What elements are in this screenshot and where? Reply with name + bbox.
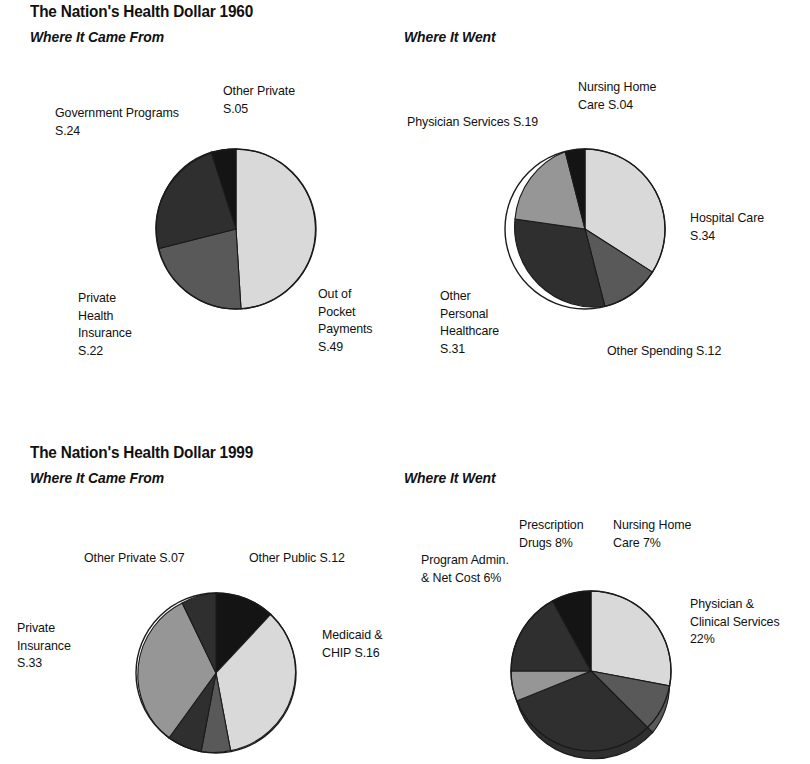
label-hospital-care-1960: Hospital Care S.34 [690, 209, 764, 244]
pie-chart-went-1960 [504, 148, 666, 310]
label-other-private-1999: Other Private S.07 [84, 549, 185, 567]
label-other-personal-healthcare-1960: Other Personal Healthcare S.31 [440, 287, 499, 357]
subtitle-went-1960: Where It Went [404, 28, 496, 45]
slice-physician-clinical-services [591, 591, 671, 686]
label-private-health-insurance-1960: Private Health Insurance S.22 [78, 289, 132, 359]
label-physician-clinical-services-1999: Physician & Clinical Services 22% [690, 595, 780, 648]
label-nursing-home-care-1999: Nursing Home Care 7% [613, 516, 691, 551]
label-out-of-pocket-payments-1960: Out of Pocket Payments S.49 [318, 285, 372, 355]
label-other-private-1960: Other Private S.05 [223, 82, 295, 117]
subtitle-went-1999: Where It Went [404, 469, 496, 486]
slice-out-of-pocket-payments [236, 149, 315, 309]
label-private-insurance-1999: Private Insurance S.33 [17, 619, 71, 672]
label-medicaid-chip-1999: Medicaid & CHIP S.16 [322, 626, 383, 661]
pie-svg-went-1999 [510, 590, 672, 762]
label-other-public-1999: Other Public S.12 [249, 549, 345, 567]
subtitle-came-from-1960: Where It Came From [30, 28, 164, 45]
label-other-spending-1960: Other Spending S.12 [607, 342, 721, 360]
label-program-admin-1999: Program Admin. & Net Cost 6% [421, 551, 509, 586]
label-nursing-home-care-1960: Nursing Home Care S.04 [578, 78, 656, 113]
pie-chart-came-from-1960 [155, 148, 317, 310]
label-prescription-drugs-1999: Prescription Drugs 8% [519, 516, 583, 551]
pie-svg-came-from-1960 [155, 148, 317, 310]
pie-svg-came-from-1999 [135, 592, 297, 764]
page-title-1960: The Nation's Health Dollar 1960 [30, 2, 253, 21]
pie-chart-came-from-1999 [135, 592, 297, 764]
subtitle-came-from-1999: Where It Came From [30, 469, 164, 486]
page-title-1999: The Nation's Health Dollar 1999 [30, 443, 253, 462]
pie-chart-went-1999 [510, 590, 672, 762]
label-government-programs-1960: Government Programs S.24 [55, 104, 179, 139]
label-physician-services-1960: Physician Services S.19 [407, 113, 538, 131]
pie-svg-went-1960 [504, 148, 666, 310]
